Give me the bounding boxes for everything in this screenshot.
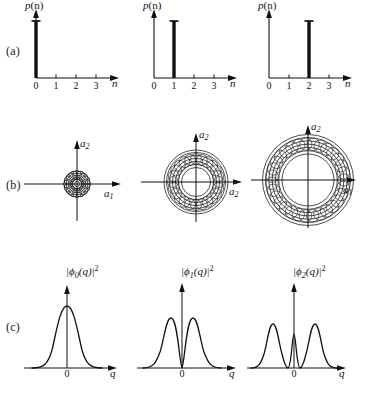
- tick-c2-origin: 0: [177, 368, 187, 379]
- tick-a1-3: 3: [91, 80, 101, 91]
- axis-label-phi1-c2: |ϕ1(q)|2: [181, 264, 214, 280]
- tick-c3-origin: 0: [289, 368, 299, 379]
- tick-a1-2: 2: [71, 80, 81, 91]
- panel-c3: |ϕ2(q)|2 0 q: [245, 264, 365, 384]
- panel-c2: |ϕ1(q)|2 0 q: [133, 264, 255, 384]
- tick-a1-1: 1: [51, 80, 61, 91]
- panel-b3: a1 a2: [249, 116, 366, 234]
- tick-a2-2: 2: [189, 80, 199, 91]
- row-label-a: (a): [6, 44, 20, 59]
- plot-b2: [137, 120, 259, 228]
- axis-label-pn-a2: p(n): [143, 0, 161, 11]
- tick-a2-3: 3: [209, 80, 219, 91]
- panel-a2: p(n) 0 1 2 3 n: [138, 0, 248, 95]
- plot-b1: [18, 125, 136, 225]
- plot-c2: [133, 264, 255, 384]
- figure-root: (a) p(n) 0 1 2 3 n p(n): [0, 0, 366, 401]
- axis-label-pn-a1: p(n): [25, 0, 43, 11]
- axis-label-a1-b1: a1: [104, 187, 114, 201]
- panel-c1: |ϕ0(q)|2 0 q: [18, 264, 136, 384]
- axis-label-a2-b2-y: a2: [199, 128, 209, 142]
- plot-c1: [18, 264, 136, 384]
- axis-label-n-a2: n: [230, 77, 236, 89]
- panel-a3: p(n) 0 1 2 3 n: [253, 0, 363, 95]
- axis-label-n-a3: n: [345, 77, 351, 89]
- axis-label-q-c1: q: [110, 367, 116, 379]
- axis-label-q-c2: q: [229, 367, 235, 379]
- plot-c3: [245, 264, 365, 384]
- tick-a3-2: 2: [304, 80, 314, 91]
- axis-label-pn-a3: p(n): [258, 0, 276, 11]
- plot-b3: [249, 116, 366, 234]
- axis-label-phi0-c1: |ϕ0(q)|2: [66, 264, 99, 280]
- tick-a2-1: 1: [169, 80, 179, 91]
- tick-a2-0: 0: [149, 80, 159, 91]
- tick-a3-3: 3: [324, 80, 334, 91]
- tick-a3-0: 0: [264, 80, 274, 91]
- tick-c1-origin: 0: [62, 368, 72, 379]
- axis-label-a2-b2-x: a2: [229, 185, 239, 199]
- panel-b1: a1 a2: [18, 125, 136, 225]
- panel-a1: p(n) 0 1 2 3 n: [20, 0, 130, 95]
- tick-a3-1: 1: [284, 80, 294, 91]
- axis-label-a1-b3: a1: [343, 183, 353, 197]
- axis-label-q-c3: q: [339, 367, 345, 379]
- axis-label-a2-b1: a2: [80, 137, 90, 151]
- tick-a1-0: 0: [31, 80, 41, 91]
- panel-b2: a2 a2: [137, 120, 259, 228]
- axis-label-n-a1: n: [112, 77, 118, 89]
- axis-label-phi2-c3: |ϕ2(q)|2: [293, 264, 326, 280]
- axis-label-a2-b3: a2: [311, 120, 321, 134]
